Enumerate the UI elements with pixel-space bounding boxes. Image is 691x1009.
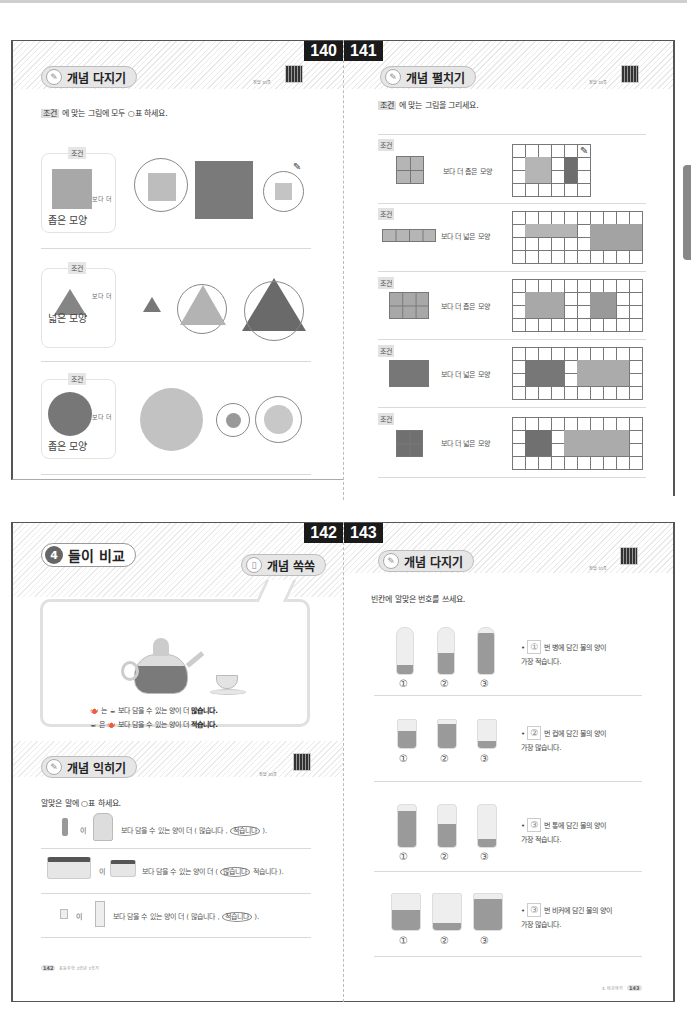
condition-text: 보다 더 좁은 모양 — [441, 301, 490, 311]
water-level — [398, 731, 416, 748]
answer-blank[interactable]: ① — [527, 640, 541, 654]
close-paren: ). — [279, 868, 284, 876]
section-title: 개념 익히기 — [67, 759, 126, 776]
option-less-circled[interactable]: 적습니다 — [230, 826, 260, 836]
cup-3 — [477, 719, 497, 749]
triangle-shape — [143, 297, 161, 312]
sentence: 보다 담을 수 있는 양이 더 ( 많습니다 적습니다 ). — [142, 866, 284, 876]
instruction-text: 에 맞는 그림에 모두 ○표 하세요. — [62, 109, 168, 118]
large-container-icon — [47, 857, 91, 879]
answer-fill — [564, 430, 629, 456]
footer-page-number: 143 — [627, 985, 641, 991]
sentence-text: 보다 담을 수 있는 양이 더 ( — [142, 868, 218, 876]
answer-blank[interactable]: ② — [527, 726, 541, 740]
divider — [378, 477, 646, 478]
condition-label: 조건 — [378, 277, 394, 289]
qr-code-icon[interactable] — [621, 65, 639, 83]
item-label: ① — [399, 851, 408, 862]
square-shape — [52, 169, 92, 209]
teapot-handle — [121, 661, 139, 681]
divider — [41, 893, 311, 894]
item-label: ③ — [480, 753, 489, 764]
answer-fill — [590, 224, 642, 250]
divider — [378, 271, 646, 272]
item-label: ② — [440, 935, 449, 946]
condition-label: 조건 — [378, 208, 394, 220]
bottle-1 — [396, 627, 414, 675]
compare-text: 보다 더 — [92, 412, 112, 421]
pencil-icon: ✎ — [383, 553, 399, 569]
section-pill: ✎개념 익히기 — [41, 756, 137, 778]
square-shape — [195, 161, 253, 219]
qr-code-icon[interactable] — [620, 547, 638, 565]
instruction: 알맞은 말에 ○표 하세요. — [41, 797, 121, 808]
chapter-title-text: 들이 비교 — [68, 545, 125, 565]
chapter-title: 4 들이 비교 — [41, 543, 136, 567]
statement-line-1: 번 비커에 담긴 물의 양이 — [544, 907, 613, 915]
saucer — [210, 689, 246, 695]
cup-2 — [437, 719, 457, 749]
qr-code-icon[interactable] — [285, 65, 303, 83]
option-less[interactable]: 적습니다 — [253, 868, 277, 876]
divider — [374, 695, 642, 696]
condition-tag: 조건 — [41, 109, 59, 118]
answer-circle-mark[interactable] — [244, 281, 304, 341]
condition-label: 조건 — [68, 147, 86, 159]
beaker-3 — [473, 893, 503, 931]
water-level — [398, 811, 416, 847]
section-pill: ✎개념 펼치기 — [380, 66, 476, 88]
divider — [41, 848, 311, 849]
condition-shape — [389, 292, 429, 319]
pencil-icon: ✎ — [385, 69, 401, 85]
water-level — [392, 910, 420, 930]
water-level — [478, 633, 494, 674]
statement-line-2: 가장 적습니다. — [521, 658, 561, 666]
answer-blank[interactable]: ③ — [527, 903, 541, 917]
scan-top-edge — [0, 0, 687, 3]
answer-blank[interactable]: ③ — [527, 818, 541, 832]
option-more-circled[interactable]: 많습니다 — [220, 867, 250, 877]
section-title: 개념 펼치기 — [406, 69, 465, 86]
water-level — [397, 665, 413, 674]
example-fill — [525, 224, 577, 237]
statement-line-1: 번 컵에 담긴 물의 양이 — [544, 730, 607, 738]
page-number: 142 — [304, 523, 343, 543]
qr-code-icon[interactable] — [293, 753, 311, 771]
answer-statement: • ① 번 병에 담긴 물의 양이가장 적습니다. — [521, 640, 607, 669]
water-level — [474, 899, 502, 930]
condition-shape — [382, 229, 436, 242]
teapot-lid — [153, 638, 169, 656]
example-fill — [525, 430, 551, 456]
condition-box: 조건 보다 더 좁은 모양 — [41, 379, 116, 459]
condition-text: 넓은 모양 — [48, 310, 87, 325]
option-less-circled[interactable]: 적습니다 — [222, 912, 252, 922]
chapter-side-tab[interactable] — [683, 165, 691, 260]
section-title: 개념 다지기 — [67, 69, 126, 86]
short-glass-icon — [60, 909, 68, 919]
condition-shape — [396, 156, 424, 184]
condition-tag: 조건 — [378, 101, 396, 110]
instruction: 조건 에 맞는 그림을 그리세요. — [378, 99, 479, 110]
water-level — [433, 923, 461, 930]
divider — [41, 474, 311, 475]
divider — [374, 956, 642, 957]
small-bottle-icon — [62, 818, 68, 836]
water-level — [438, 653, 454, 674]
sentence-text: 보다 담을 수 있는 양이 더 ( — [113, 913, 189, 921]
particle: 이 — [76, 911, 82, 921]
item-label: ③ — [480, 851, 489, 862]
concept-title: 개념 쏙쏙 — [267, 557, 315, 574]
option-more[interactable]: 많습니다 — [191, 913, 215, 921]
page-number: 140 — [304, 41, 343, 61]
water-level — [478, 839, 496, 847]
condition-box: 조건 보다 더 좁은 모양 — [41, 153, 116, 233]
circle-shape — [48, 392, 92, 436]
answer-fill — [564, 157, 577, 183]
tall-glass-icon — [95, 901, 105, 927]
bottle-2 — [437, 627, 455, 675]
item-label: ① — [399, 678, 408, 689]
option-more[interactable]: 많습니다 — [199, 827, 223, 835]
condition-label: 조건 — [68, 262, 86, 274]
jar-2 — [437, 804, 457, 848]
particle: 이 — [80, 825, 86, 835]
